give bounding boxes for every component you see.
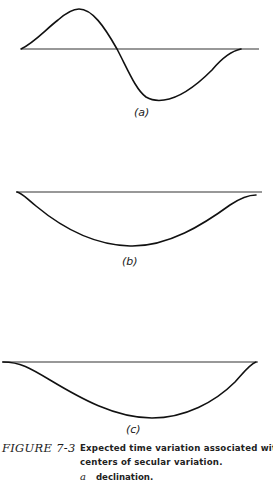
panel-c-curve (3, 362, 256, 418)
figure-graphics (0, 0, 273, 483)
panel-a-plot (21, 9, 259, 101)
caption-sub-text: declination. (96, 472, 153, 482)
caption-sub-item: adeclination. (80, 471, 153, 482)
panel-b-plot (16, 192, 262, 246)
panel-c-plot (2, 362, 258, 418)
panel-a-curve (21, 9, 241, 101)
panel-a-label: (a) (134, 106, 149, 119)
caption-line-2: centers of secular variation. (80, 457, 223, 467)
caption-sub-letter: a (80, 471, 86, 482)
caption-line-1: Expected time variation associated with (80, 443, 273, 453)
panel-b-curve (17, 192, 256, 246)
figure-number: FIGURE 7-3 (2, 441, 76, 455)
panel-b-label: (b) (122, 255, 138, 268)
panel-c-label: (c) (126, 423, 141, 436)
